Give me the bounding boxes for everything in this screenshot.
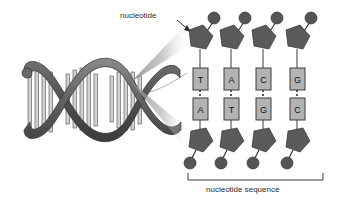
helix-rung	[110, 76, 113, 122]
base-letter-bottom: C	[294, 105, 301, 115]
nucleotide-label: nucleotide	[120, 11, 157, 20]
dna-nucleotide-diagram: nucleotide T A A	[0, 0, 339, 200]
helix-rung	[35, 70, 38, 130]
helix-rung	[117, 72, 120, 128]
phosphate-circle-top	[239, 12, 251, 24]
helix-rung	[28, 72, 31, 128]
helix-rung	[94, 74, 97, 126]
base-letter-top: A	[228, 75, 234, 85]
phosphate-circle-bottom	[184, 157, 196, 169]
base-letter-top: T	[198, 75, 204, 85]
base-letter-bottom: T	[229, 105, 235, 115]
phosphate-circle-bottom	[215, 157, 227, 169]
nucleotide-sequence-label: nucleotide sequence	[206, 185, 280, 194]
base-letter-top: C	[260, 75, 267, 85]
phosphate-circle-top	[271, 12, 283, 24]
base-letter-bottom: A	[197, 105, 203, 115]
phosphate-circle-bottom	[247, 157, 259, 169]
helix-end-cap	[22, 68, 32, 78]
phosphate-circle-bottom	[281, 157, 293, 169]
phosphate-circle-top	[305, 12, 317, 24]
helix-rung	[87, 70, 90, 130]
base-letter-top: G	[294, 75, 301, 85]
phosphate-circle-top	[208, 12, 220, 24]
base-letter-bottom: G	[260, 105, 267, 115]
